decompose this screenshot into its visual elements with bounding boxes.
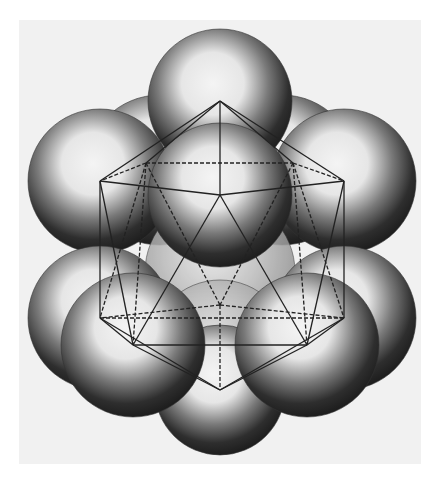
icosahedron-sphere-packing-illustration [0, 0, 439, 489]
spheres-group [28, 29, 416, 455]
